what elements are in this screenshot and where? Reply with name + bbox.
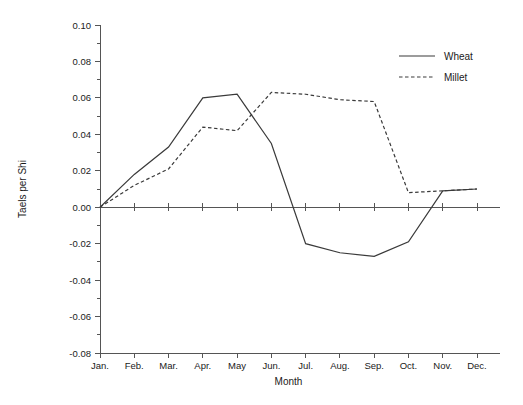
x-tick-label: Aug. [330,360,350,371]
legend-label-millet: Millet [444,72,468,83]
x-tick-label: Jun. [262,360,280,371]
y-tick-label: 0.10 [73,20,92,31]
x-axis: Jan.Feb.Mar.Apr.MayJun.Jul.Aug.Sep.Oct.N… [91,353,500,387]
legend: WheatMillet [399,51,473,83]
x-tick-label: Apr. [194,360,211,371]
y-axis-title: Taels per Shi [17,160,28,218]
y-tick-label: 0.06 [73,92,92,103]
legend-label-wheat: Wheat [444,51,473,62]
line-chart: 0.100.080.060.040.020.00-0.02-0.04-0.06-… [0,0,523,405]
x-tick-label: Oct. [400,360,417,371]
series-line-millet [100,92,477,207]
x-tick-label: Dec. [467,360,487,371]
y-tick-label: -0.02 [69,238,91,249]
x-axis-title: Month [275,376,303,387]
x-tick-label: Jan. [91,360,109,371]
x-tick-label: Mar. [159,360,177,371]
y-tick-label: 0.04 [73,129,92,140]
x-tick-label: May [228,360,246,371]
y-tick-label: 0.02 [73,165,92,176]
y-tick-label: 0.00 [73,202,92,213]
y-tick-label: -0.04 [69,275,91,286]
zero-baseline [100,203,500,211]
series-line-wheat [100,94,477,256]
chart-container: 0.100.080.060.040.020.00-0.02-0.04-0.06-… [0,0,523,405]
x-tick-label: Nov. [433,360,452,371]
x-tick-label: Jul. [298,360,313,371]
y-tick-label: -0.06 [69,311,91,322]
y-tick-label: -0.08 [69,348,91,359]
y-tick-label: 0.08 [73,56,92,67]
x-tick-label: Sep. [364,360,384,371]
x-tick-label: Feb. [125,360,144,371]
y-axis: 0.100.080.060.040.020.00-0.02-0.04-0.06-… [17,20,100,359]
